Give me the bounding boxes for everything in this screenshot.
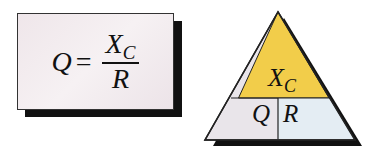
triangle-bottom-right-label: R (283, 100, 298, 128)
formula-triangle (0, 0, 381, 159)
triangle-bottom-left-label: Q (252, 100, 270, 128)
triangle-top-label: XC (268, 63, 296, 93)
